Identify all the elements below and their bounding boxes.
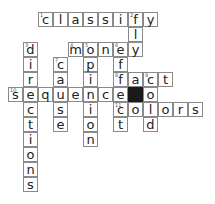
crossword-cell[interactable]: i	[23, 132, 38, 147]
cell-letter: i	[24, 58, 37, 72]
cell-letter: a	[129, 73, 142, 87]
crossword-cell[interactable]: 10s	[8, 87, 23, 102]
cell-letter: n	[24, 163, 37, 177]
cell-letter: n	[84, 88, 97, 102]
crossword-cell[interactable]: 8f	[113, 72, 128, 87]
crossword-cell[interactable]: s	[53, 102, 68, 117]
crossword-cell[interactable]: s	[98, 12, 113, 27]
crossword-cell[interactable]: t	[158, 72, 173, 87]
crossword-cell[interactable]: t	[23, 117, 38, 132]
cell-letter: i	[24, 133, 37, 147]
cell-letter: u	[54, 88, 67, 102]
crossword-cell[interactable]: 2f	[128, 12, 143, 27]
cell-letter: p	[84, 58, 97, 72]
crossword-cell[interactable]: i	[113, 12, 128, 27]
crossword-cell[interactable]: u	[53, 87, 68, 102]
crossword-cell[interactable]: o	[158, 102, 173, 117]
cell-letter: s	[24, 178, 37, 192]
crossword-cell[interactable]: e	[53, 117, 68, 132]
black-cell	[128, 87, 143, 102]
crossword-cell[interactable]: a	[68, 12, 83, 27]
crossword-cell[interactable]: a	[128, 72, 143, 87]
cell-letter: o	[24, 148, 37, 162]
cell-letter: t	[24, 118, 37, 132]
crossword-cell[interactable]: o	[23, 147, 38, 162]
cell-letter: c	[24, 103, 37, 117]
cell-letter: a	[54, 73, 67, 87]
crossword-cell[interactable]: n	[98, 42, 113, 57]
cell-letter: o	[159, 103, 172, 117]
cell-letter: f	[114, 58, 127, 72]
cell-letter: n	[84, 133, 97, 147]
crossword-cell[interactable]: l	[53, 12, 68, 27]
cell-letter: s	[84, 13, 97, 27]
clue-number: 1	[40, 13, 43, 18]
clue-number: 5	[85, 43, 88, 48]
cell-letter: i	[84, 103, 97, 117]
crossword-cell[interactable]: 9c	[143, 72, 158, 87]
crossword-cell[interactable]: y	[143, 12, 158, 27]
crossword-cell[interactable]: n	[23, 162, 38, 177]
clue-number: 11	[115, 103, 121, 108]
clue-number: 8	[115, 73, 118, 78]
crossword-cell[interactable]: a	[53, 72, 68, 87]
cell-letter: t	[114, 118, 127, 132]
cell-letter: l	[54, 13, 67, 27]
cell-letter: o	[129, 103, 142, 117]
crossword-cell[interactable]: l	[128, 27, 143, 42]
crossword-cell[interactable]: e	[23, 87, 38, 102]
clue-number: 6	[115, 43, 118, 48]
cell-letter: q	[39, 88, 52, 102]
crossword-cell[interactable]: 7c	[53, 57, 68, 72]
crossword-cell[interactable]: i	[23, 57, 38, 72]
cell-letter: e	[24, 88, 37, 102]
crossword-cell[interactable]: l	[143, 102, 158, 117]
clue-number: 9	[145, 73, 148, 78]
crossword-cell[interactable]: p	[83, 57, 98, 72]
crossword-cell[interactable]: 3d	[23, 42, 38, 57]
crossword-cell[interactable]: s	[83, 12, 98, 27]
crossword-cell[interactable]: c	[98, 87, 113, 102]
cell-letter: t	[159, 73, 172, 87]
clue-number: 4	[70, 43, 73, 48]
clue-number: 7	[55, 58, 58, 63]
crossword-cell[interactable]: o	[143, 87, 158, 102]
cell-letter: o	[144, 88, 157, 102]
crossword-cell[interactable]: 11c	[113, 102, 128, 117]
cell-letter: y	[129, 43, 142, 57]
crossword-cell[interactable]: c	[23, 102, 38, 117]
cell-letter: l	[144, 103, 157, 117]
crossword-cell[interactable]: f	[113, 57, 128, 72]
crossword-cell[interactable]: e	[113, 87, 128, 102]
crossword-cell[interactable]: q	[38, 87, 53, 102]
crossword-cell[interactable]: y	[128, 42, 143, 57]
cell-letter: s	[99, 13, 112, 27]
crossword-cell[interactable]: r	[23, 72, 38, 87]
crossword-cell[interactable]: 4m	[68, 42, 83, 57]
cell-letter: l	[129, 28, 142, 42]
crossword-cell[interactable]: n	[83, 87, 98, 102]
crossword-cell[interactable]: s	[23, 177, 38, 192]
crossword-cell[interactable]: 5o	[83, 42, 98, 57]
clue-number: 2	[130, 13, 133, 18]
cell-letter: e	[114, 88, 127, 102]
cell-letter: d	[144, 118, 157, 132]
crossword-grid: 1classi2fyly3directions4m5on6epinionf8fe…	[0, 0, 215, 204]
cell-letter: n	[99, 43, 112, 57]
crossword-cell[interactable]: r	[173, 102, 188, 117]
clue-number: 3	[25, 43, 28, 48]
crossword-cell[interactable]: o	[83, 117, 98, 132]
cell-letter: s	[189, 103, 202, 117]
crossword-cell[interactable]: n	[83, 132, 98, 147]
crossword-cell[interactable]: t	[113, 117, 128, 132]
crossword-cell[interactable]: o	[128, 102, 143, 117]
cell-letter: o	[84, 118, 97, 132]
crossword-cell[interactable]: i	[83, 72, 98, 87]
cell-letter: a	[69, 13, 82, 27]
crossword-cell[interactable]: 1c	[38, 12, 53, 27]
crossword-cell[interactable]: e	[68, 87, 83, 102]
crossword-cell[interactable]: 6e	[113, 42, 128, 57]
crossword-cell[interactable]: d	[143, 117, 158, 132]
crossword-cell[interactable]: i	[83, 102, 98, 117]
crossword-cell[interactable]: s	[188, 102, 203, 117]
